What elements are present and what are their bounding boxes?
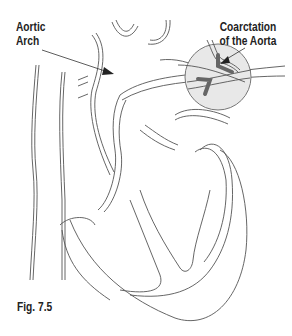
figure-caption: Fig. 7.5: [17, 300, 52, 314]
aortic-arch-pointer: [42, 50, 108, 72]
heart-illustration: [0, 0, 292, 336]
aortic-arch-label: Aortic Arch: [16, 20, 45, 48]
diagram-canvas: Aortic Arch Coarctation of the Aorta Fig…: [0, 0, 292, 336]
coarctation-label: Coarctation of the Aorta: [206, 20, 291, 48]
